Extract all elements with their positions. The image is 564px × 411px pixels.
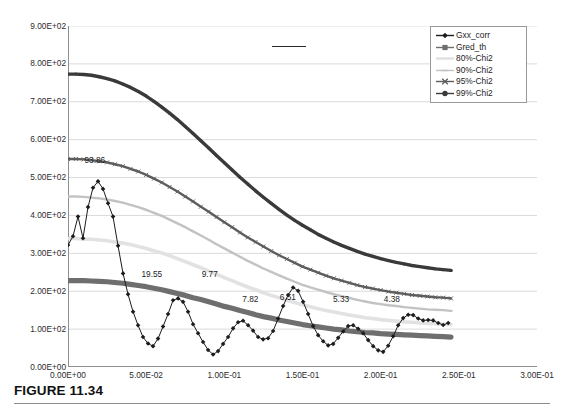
legend-square-icon — [434, 42, 456, 53]
legend-none-icon — [434, 53, 456, 64]
x-axis-tick-label: 0.00E+00 — [33, 371, 103, 380]
legend-cross-icon — [434, 76, 456, 87]
data-point-label: 4.38 — [384, 295, 400, 304]
legend-item[interactable]: Gred_th — [434, 42, 522, 54]
legend-item[interactable]: 95%-Chi2 — [434, 76, 522, 88]
data-point-label: 9.77 — [202, 270, 218, 279]
legend-item-label: Gxx_corr — [456, 30, 490, 41]
data-point-label: 6.51 — [280, 293, 296, 302]
figure-root: 0.00E+001.00E+022.00E+023.00E+024.00E+02… — [0, 0, 564, 411]
y-axis-tick-label: 6.00E+02 — [4, 135, 66, 144]
series-95-chi2 — [68, 157, 453, 300]
legend-item[interactable]: Gxx_corr — [434, 30, 522, 42]
x-axis-tick-label: 2.00E-01 — [346, 371, 416, 380]
legend-item-label: 90%-Chi2 — [456, 65, 493, 76]
legend-diamond-icon — [434, 30, 456, 41]
x-axis-tick-label: 2.50E-01 — [424, 371, 494, 380]
y-axis-tick-label: 4.00E+02 — [4, 211, 66, 220]
series-gxx-corr — [68, 179, 451, 357]
legend-item-label: 99%-Chi2 — [456, 88, 493, 99]
x-axis-tick-label: 1.00E-01 — [189, 371, 259, 380]
legend-item-label: 80%-Chi2 — [456, 53, 493, 64]
x-axis-tick-label: 1.50E-01 — [268, 371, 338, 380]
legend-circle-icon — [434, 88, 456, 99]
y-axis-tick-label: 8.00E+02 — [4, 59, 66, 68]
y-axis-tick-label: 5.00E+02 — [4, 173, 66, 182]
caption-divider — [14, 403, 550, 404]
y-axis-tick-label: 3.00E+02 — [4, 249, 66, 258]
x-axis-tick-label: 3.00E-01 — [502, 371, 564, 380]
series-gred-th — [68, 281, 451, 337]
legend-item-label: Gred_th — [456, 42, 486, 53]
legend-item[interactable]: 90%-Chi2 — [434, 65, 522, 77]
legend-item-label: 95%-Chi2 — [456, 76, 493, 87]
legend-item[interactable]: 99%-Chi2 — [434, 88, 522, 100]
y-axis-tick-label: 1.00E+02 — [4, 325, 66, 334]
chart-area: 0.00E+001.00E+022.00E+023.00E+024.00E+02… — [0, 0, 564, 380]
y-axis-tick-label: 7.00E+02 — [4, 97, 66, 106]
y-axis-tick-label: 9.00E+02 — [4, 22, 66, 31]
y-axis-tick-layer: 0.00E+001.00E+022.00E+023.00E+024.00E+02… — [0, 0, 66, 380]
legend-item[interactable]: 80%-Chi2 — [434, 53, 522, 65]
legend-tick-icon — [434, 65, 456, 76]
stray-line-artifact — [272, 46, 306, 47]
x-axis-tick-label: 5.00E-02 — [111, 371, 181, 380]
figure-caption-block: FIGURE 11.34 — [0, 381, 564, 411]
data-point-label: 5.33 — [333, 295, 349, 304]
data-point-label: 19.55 — [141, 270, 162, 279]
legend: Gxx_corrGred_th80%-Chi290%-Chi295%-Chi29… — [430, 26, 527, 103]
data-point-label: 7.82 — [242, 295, 258, 304]
y-axis-tick-label: 2.00E+02 — [4, 287, 66, 296]
data-point-label: 93.86 — [84, 156, 105, 165]
figure-caption: FIGURE 11.34 — [14, 383, 103, 398]
